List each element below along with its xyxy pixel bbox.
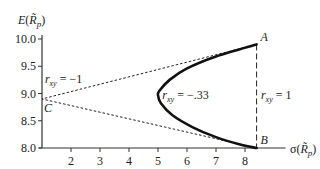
x-tick-label: 3 — [97, 154, 103, 168]
y-tick-label: 9.0 — [21, 87, 36, 101]
point-label-a: A — [260, 30, 269, 44]
y-tick-label: 8.0 — [21, 141, 36, 155]
annotation-r-minus-033: rxy = −.33 — [162, 88, 208, 104]
point-label-c: C — [44, 101, 53, 115]
x-axis-title: σ(R̃p) — [290, 142, 316, 158]
x-tick-label: 5 — [155, 154, 161, 168]
annotation-r-plus-1: rxy = 1 — [261, 88, 292, 104]
point-label-b: B — [261, 133, 269, 147]
y-tick-label: 8.5 — [21, 114, 36, 128]
chart: 10.09.59.08.58.02345678E(R̃p)σ(R̃p) ABCr… — [0, 0, 320, 169]
x-tick-label: 7 — [213, 154, 219, 168]
series-layer — [42, 44, 257, 148]
x-tick-label: 4 — [126, 154, 132, 168]
x-tick-label: 6 — [184, 154, 190, 168]
y-axis-title: E(R̃p) — [17, 13, 45, 29]
y-tick-label: 9.5 — [21, 59, 36, 73]
series-r-minus-1 — [42, 44, 257, 148]
annotation-r-minus-1: rxy = −1 — [45, 72, 82, 88]
x-tick-label: 2 — [68, 154, 74, 168]
x-tick-label: 8 — [242, 154, 248, 168]
y-tick-label: 10.0 — [15, 32, 36, 46]
